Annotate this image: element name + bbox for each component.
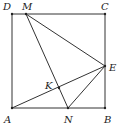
label-c: C bbox=[101, 1, 109, 12]
geometry-diagram: D M C E K A N B bbox=[0, 0, 119, 135]
label-e: E bbox=[108, 62, 117, 73]
label-b: B bbox=[103, 114, 111, 125]
segment-ne bbox=[68, 66, 105, 108]
point-b bbox=[104, 107, 106, 109]
point-d bbox=[11, 13, 13, 15]
label-d: D bbox=[2, 1, 11, 12]
label-m: M bbox=[21, 1, 33, 12]
point-k bbox=[58, 87, 60, 89]
label-k: K bbox=[44, 80, 53, 91]
point-e bbox=[104, 65, 106, 67]
point-n bbox=[67, 107, 69, 109]
point-m bbox=[25, 13, 27, 15]
point-c bbox=[104, 13, 106, 15]
label-n: N bbox=[63, 114, 74, 125]
label-a: A bbox=[3, 114, 11, 125]
point-a bbox=[11, 107, 13, 109]
